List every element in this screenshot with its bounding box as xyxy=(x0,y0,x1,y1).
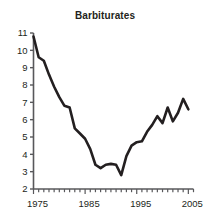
y-axis-tick-label: 11 xyxy=(18,27,28,38)
data-line xyxy=(34,36,189,175)
y-axis-tick-label: 10 xyxy=(17,45,28,56)
data-series-barbiturates xyxy=(34,36,189,175)
x-axis-tick-label: 2005 xyxy=(182,198,203,209)
x-axis-tick-label: 1985 xyxy=(79,198,100,209)
y-axis-tick-label: 9 xyxy=(22,62,27,73)
chart-plot-area: 234567891011 1975198519952005 xyxy=(0,0,210,224)
y-axis-tick-label: 2 xyxy=(22,183,27,194)
y-axis-tick-label: 4 xyxy=(22,149,27,160)
x-axis: 1975198519952005 xyxy=(27,189,203,209)
y-axis-tick-label: 8 xyxy=(22,79,27,90)
y-axis: 234567891011 xyxy=(17,27,34,194)
y-axis-tick-label: 3 xyxy=(22,166,27,177)
x-axis-tick-label: 1995 xyxy=(130,198,151,209)
y-axis-tick-label: 6 xyxy=(22,114,27,125)
chart-container: Barbiturates 234567891011 19751985199520… xyxy=(0,0,210,224)
y-axis-tick-label: 5 xyxy=(22,131,27,142)
y-axis-tick-label: 7 xyxy=(22,97,27,108)
x-axis-tick-label: 1975 xyxy=(27,198,48,209)
